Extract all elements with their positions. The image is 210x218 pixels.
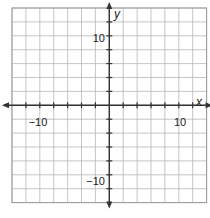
coordinate-plane: x y −10 10 10 −10 xyxy=(0,0,210,218)
y-axis-label: y xyxy=(113,7,121,21)
x-tick-label-10: 10 xyxy=(174,116,186,128)
y-tick-label-10: 10 xyxy=(93,32,105,44)
x-tick-label-neg10: −10 xyxy=(29,116,48,128)
x-axis-label: x xyxy=(195,95,203,109)
y-tick-label-neg10: −10 xyxy=(86,175,105,187)
